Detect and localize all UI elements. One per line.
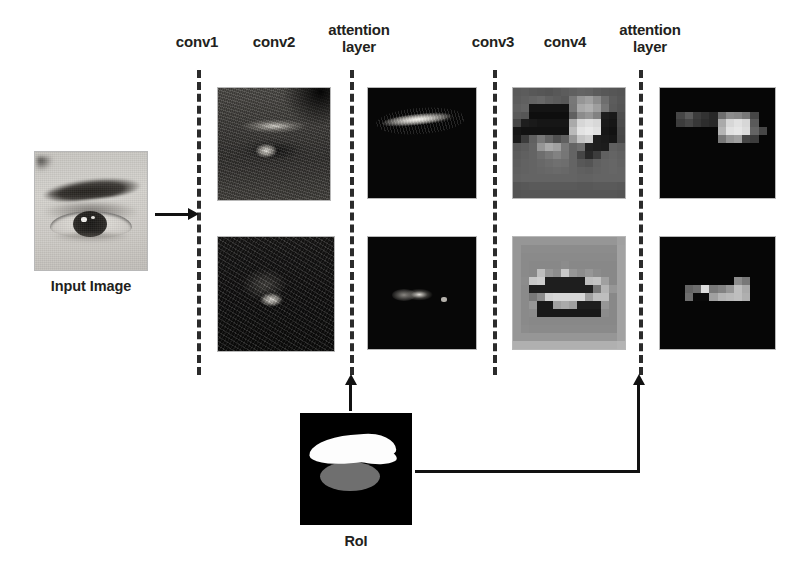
stage-divider-conv1: [197, 70, 201, 375]
attention2-feature-map-bottom: [660, 237, 775, 349]
arrow-roi-to-attention1-shaft: [349, 383, 352, 411]
stage-label-conv2: conv2: [243, 34, 305, 51]
roi-eye-region: [320, 462, 379, 491]
stage-label-conv4: conv4: [534, 34, 596, 51]
stage-divider-attention-1: [350, 70, 354, 375]
arrow-roi-to-attention2-horizontal: [415, 470, 639, 473]
arrow-input-to-conv1-shaft: [155, 213, 189, 216]
roi-mask: [300, 413, 412, 525]
attention2-bottom-pixel-grid: [660, 237, 775, 349]
attention2-bottom-blur: [660, 237, 775, 349]
arrow-roi-to-attention1-head: [345, 374, 357, 385]
attention2-feature-map-top: [660, 88, 775, 198]
arrow-roi-to-attention2-vertical: [637, 383, 640, 473]
conv4-top-blur: [513, 88, 625, 198]
conv4-bottom-blur: [513, 237, 625, 349]
conv4-bottom-pixel-grid: [513, 237, 625, 349]
stage-label-attention-layer-1: attention layer: [316, 22, 402, 56]
attention2-top-pixel-grid: [660, 88, 775, 198]
conv2-feature-map-bottom: [218, 237, 334, 351]
figure-canvas: conv1 conv2 attention layer conv3 conv4 …: [0, 0, 795, 575]
conv2-top-dark-corner: [283, 88, 330, 126]
caption-roi: RoI: [300, 533, 412, 549]
arrow-input-to-conv1-head: [188, 208, 199, 220]
input-eye-photo-content: [35, 152, 147, 270]
stage-divider-attention-2: [639, 70, 643, 375]
conv2-bottom-texture: [218, 237, 334, 351]
arrow-roi-to-attention2-head: [633, 374, 645, 385]
stage-divider-conv3: [493, 70, 497, 375]
conv2-feature-map-top: [218, 88, 330, 200]
attention1-bottom-spark: [441, 297, 446, 301]
photo-grain: [35, 152, 147, 270]
caption-input-image: Input Image: [15, 278, 167, 294]
attention1-feature-map-bottom: [368, 237, 476, 349]
attention1-feature-map-top: [368, 88, 476, 198]
input-eye-photo: [35, 152, 147, 270]
stage-label-conv3: conv3: [462, 34, 524, 51]
attention2-top-blur: [660, 88, 775, 198]
conv4-feature-map-top: [513, 88, 625, 198]
attention1-bottom-eye-activation: [400, 286, 437, 304]
conv4-feature-map-bottom: [513, 237, 625, 349]
stage-label-attention-layer-2: attention layer: [607, 22, 693, 56]
conv4-top-pixel-grid: [513, 88, 625, 198]
stage-label-conv1: conv1: [166, 34, 228, 51]
